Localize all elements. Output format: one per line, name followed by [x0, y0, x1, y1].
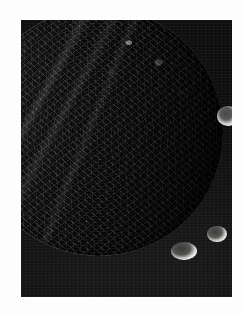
- photo-page: [0, 0, 242, 314]
- surface-stipple-texture: [21, 20, 223, 256]
- photograph-frame: [21, 20, 232, 297]
- large-crater-lower-left: [171, 242, 197, 260]
- cratered-terrain: [21, 20, 223, 256]
- smooth-bright-plain: [21, 20, 223, 256]
- large-crater-lower-right: [207, 226, 227, 242]
- moon-disk: [21, 20, 223, 256]
- limb-edge: [21, 20, 223, 256]
- terminator-shading: [21, 20, 223, 256]
- photo-caption: [0, 0, 1, 1]
- groove-system: [21, 20, 223, 256]
